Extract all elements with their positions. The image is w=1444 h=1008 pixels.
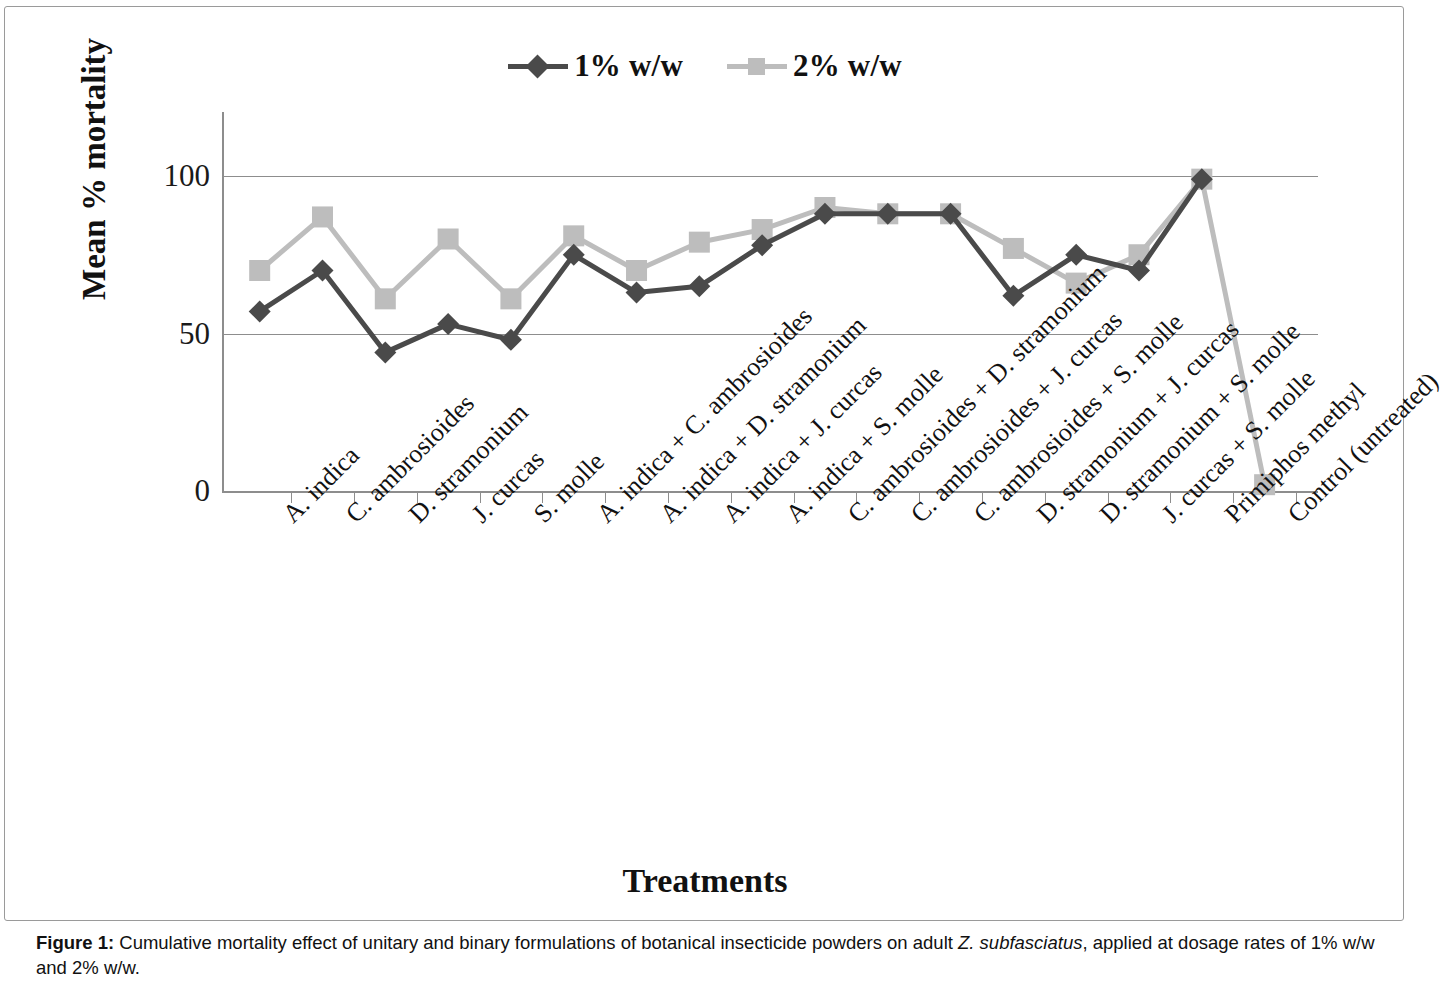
- legend-swatch-1pct: [508, 57, 568, 75]
- plot-area: 050100: [222, 112, 1318, 493]
- x-axis-category-labels: A. indicaC. ambrosioidesD. stramoniumJ. …: [222, 500, 1382, 840]
- caption-species: Z. subfasciatus: [958, 932, 1082, 953]
- caption-text-1: Cumulative mortality effect of unitary a…: [114, 932, 958, 953]
- y-tick-label-0: 0: [195, 473, 211, 509]
- data-point-square: [626, 260, 647, 281]
- data-point-square: [563, 225, 584, 246]
- square-marker-icon: [748, 58, 765, 75]
- legend-item-2pct: 2% w/w: [727, 48, 902, 84]
- y-axis-tick-labels: 050100: [130, 112, 210, 493]
- data-point-square: [375, 288, 396, 309]
- y-tick-label-100: 100: [164, 158, 211, 194]
- x-axis-title: Treatments: [0, 862, 1410, 900]
- data-point-square: [500, 288, 521, 309]
- data-point-square: [312, 206, 333, 227]
- legend-label-1pct: 1% w/w: [574, 48, 683, 84]
- data-point-square: [249, 260, 270, 281]
- chart-legend: 1% w/w 2% w/w: [0, 48, 1410, 84]
- data-point-square: [1003, 238, 1024, 259]
- data-point-square: [689, 232, 710, 253]
- data-point-diamond: [437, 313, 459, 335]
- series-svg: [222, 112, 1318, 493]
- y-tick-label-50: 50: [179, 316, 210, 352]
- legend-item-1pct: 1% w/w: [508, 48, 683, 84]
- data-point-diamond: [626, 282, 648, 304]
- figure-caption: Figure 1: Cumulative mortality effect of…: [36, 931, 1388, 980]
- diamond-marker-icon: [526, 54, 550, 78]
- data-point-square: [438, 229, 459, 250]
- caption-label: Figure 1:: [36, 932, 114, 953]
- y-axis-title: Mean % mortality: [76, 38, 113, 300]
- legend-label-2pct: 2% w/w: [793, 48, 902, 84]
- legend-swatch-2pct: [727, 57, 787, 75]
